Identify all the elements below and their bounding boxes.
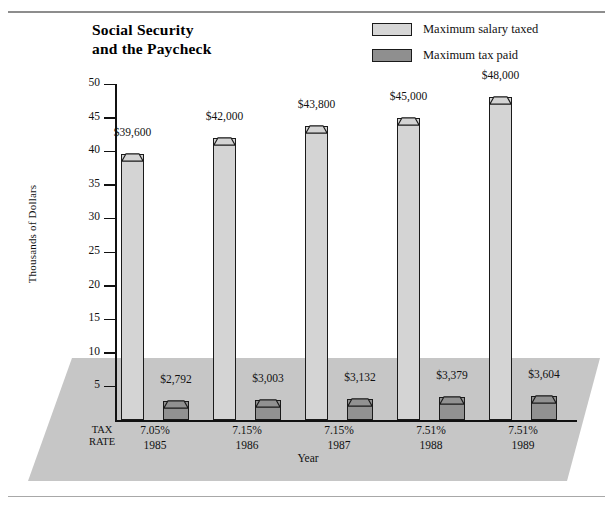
value-label-salary-1988: $45,000 (370, 90, 447, 102)
bar-cap-icon (305, 120, 328, 138)
value-label-tax-1986: $3,003 (230, 372, 306, 384)
chart-figure: Social Security and the Paycheck Maximum… (0, 0, 616, 512)
x-label-group-1987: 7.15%1987 (294, 424, 384, 453)
value-label-salary-1989: $48,000 (462, 69, 539, 81)
bar-tax-1985 (163, 395, 189, 420)
y-tick-mark (104, 218, 115, 220)
y-tick-mark (104, 319, 115, 321)
y-tick-label: 25 (70, 244, 100, 256)
y-tick-mark (104, 352, 115, 354)
tax-rate-value-1985: 7.05% (110, 424, 200, 437)
y-tick-label: 50 (70, 76, 100, 88)
value-label-tax-1988: $3,379 (414, 369, 490, 381)
value-label-tax-1987: $3,132 (322, 371, 398, 383)
tax-rate-value-1988: 7.51% (386, 424, 476, 437)
y-tick-label: 35 (70, 177, 100, 189)
y-tick-mark (104, 84, 115, 86)
tax-rate-value-1986: 7.15% (202, 424, 292, 437)
value-label-salary-1987: $43,800 (278, 98, 355, 110)
value-label-salary-1985: $39,600 (94, 126, 171, 138)
x-tick-label-1987: 1987 (294, 437, 384, 453)
bar-cap-icon (121, 148, 144, 166)
bar-cap-icon (347, 393, 373, 411)
y-tick-label: 20 (70, 278, 100, 290)
x-label-group-1986: 7.15%1986 (202, 424, 292, 453)
bar-tax-1987 (347, 393, 373, 420)
x-label-group-1988: 7.51%1988 (386, 424, 476, 453)
y-tick-mark (104, 386, 115, 388)
y-tick-label: 40 (70, 143, 100, 155)
bar-cap-icon (531, 390, 557, 408)
y-tick-mark (104, 252, 115, 254)
y-tick-label: 30 (70, 210, 100, 222)
x-tick-label-1985: 1985 (110, 437, 200, 453)
y-tick-label: 15 (70, 311, 100, 323)
y-tick-mark (104, 285, 115, 287)
bar-cap-icon (397, 112, 420, 130)
value-label-salary-1986: $42,000 (186, 110, 263, 122)
y-tick-label: 5 (70, 378, 100, 390)
x-tick-label-1989: 1989 (478, 437, 568, 453)
x-label-group-1985: 7.05%1985 (110, 424, 200, 453)
bar-cap-icon (439, 391, 465, 409)
y-tick-label: 45 (70, 110, 100, 122)
value-label-tax-1989: $3,604 (506, 368, 582, 380)
bar-cap-icon (255, 394, 281, 412)
y-tick-mark (104, 151, 115, 153)
bar-tax-1989 (531, 390, 557, 420)
tax-rate-value-1989: 7.51% (478, 424, 568, 437)
bar-tax-1986 (255, 394, 281, 420)
bar-tax-1988 (439, 391, 465, 420)
x-label-group-1989: 7.51%1989 (478, 424, 568, 453)
x-tick-label-1986: 1986 (202, 437, 292, 453)
y-axis-label: Thousands of Dollars (26, 164, 38, 304)
tax-rate-value-1987: 7.15% (294, 424, 384, 437)
x-axis-line (115, 420, 577, 422)
bar-cap-icon (163, 395, 189, 413)
value-label-tax-1985: $2,792 (138, 373, 214, 385)
y-tick-label: 10 (70, 345, 100, 357)
plot-area: 5101520253035404550 Thousands of Dollars… (0, 0, 616, 512)
x-axis-title: Year (0, 452, 616, 464)
x-tick-label-1988: 1988 (386, 437, 476, 453)
bar-cap-icon (489, 91, 512, 109)
y-tick-mark (104, 117, 115, 119)
bar-cap-icon (213, 132, 236, 150)
y-tick-mark (104, 184, 115, 186)
